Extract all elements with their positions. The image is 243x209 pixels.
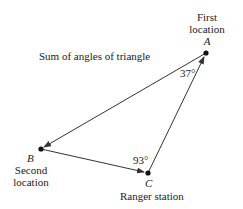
point-b-label: Second location <box>9 164 53 188</box>
point-b-label-line2: location <box>9 176 53 188</box>
point-a-letter: A <box>188 35 226 47</box>
angle-c-label: 93° <box>133 154 148 166</box>
point-a-label-line1: First <box>188 11 226 23</box>
point-b <box>38 146 43 151</box>
point-c-letter: C <box>145 177 152 189</box>
point-a <box>203 50 208 55</box>
edge-b-to-c <box>41 149 144 172</box>
point-a-label: First location A <box>188 11 226 47</box>
point-a-label-line2: location <box>188 23 226 35</box>
point-b-letter: B <box>27 152 34 164</box>
point-c <box>145 170 150 175</box>
diagram-title: Sum of angles of triangle <box>39 50 150 62</box>
point-b-label-line1: Second <box>9 164 53 176</box>
edge-c-to-a <box>148 57 204 173</box>
point-c-label: Ranger station <box>120 190 184 202</box>
angle-a-label: 37° <box>180 67 195 79</box>
